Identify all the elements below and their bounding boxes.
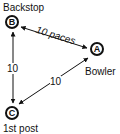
node-b-circle: B [5,15,19,29]
edge-label-a-c: 10 [50,76,61,87]
node-label-backstop: Backstop [3,2,44,13]
node-label-bowler: Bowler [85,66,116,77]
node-label-1st-post: 1st post [3,123,38,134]
node-c-circle: C [5,106,19,120]
node-a-circle: A [90,42,104,56]
field-diagram: Backstop B A Bowler C 1st post 10 paces … [0,0,120,134]
edge-label-b-c: 10 [7,63,18,74]
